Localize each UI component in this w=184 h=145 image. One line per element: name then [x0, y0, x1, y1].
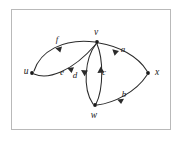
vertex-dot-w — [93, 103, 97, 107]
edge-label-e: e — [60, 67, 64, 77]
vertex-label-v: v — [94, 27, 99, 37]
figure-canvas: u v w x f e d c a b — [0, 0, 184, 145]
edge-label-f: f — [56, 34, 60, 44]
edge-label-a: a — [121, 44, 126, 54]
vertex-dot-v — [95, 40, 99, 44]
edge-c-path — [96, 44, 102, 104]
edge-a-arrowhead — [112, 49, 119, 56]
edge-label-d: d — [73, 70, 78, 80]
vertex-label-w: w — [91, 110, 98, 120]
vertex-label-u: u — [24, 66, 29, 76]
vertex-dot-u — [30, 71, 34, 75]
edge-label-b: b — [122, 89, 127, 99]
edge-f-arrowhead — [55, 47, 62, 53]
edge-d-arrowhead — [81, 70, 88, 76]
vertex-label-x: x — [154, 67, 160, 77]
directed-graph-diagram: u v w x f e d c a b — [0, 0, 184, 145]
edge-b-arrowhead — [117, 99, 124, 104]
edge-d — [81, 44, 96, 104]
edge-f-path — [34, 41, 95, 71]
edge-label-c: c — [102, 67, 106, 77]
vertex-dot-x — [146, 71, 150, 75]
edge-f — [34, 41, 95, 71]
